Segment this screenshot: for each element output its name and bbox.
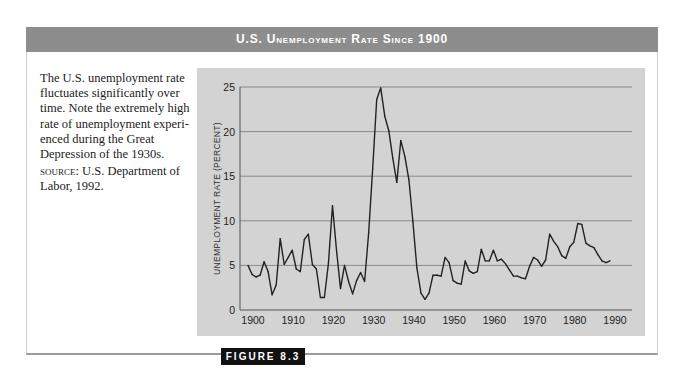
data-point-1940 xyxy=(408,179,409,180)
data-point-1973 xyxy=(541,266,542,267)
data-point-1966 xyxy=(513,276,514,277)
data-point-1928 xyxy=(360,272,361,273)
x-tick-label: 1900 xyxy=(241,314,265,326)
data-point-1914 xyxy=(304,239,305,240)
data-point-1978 xyxy=(561,255,562,256)
data-point-1909 xyxy=(284,264,285,265)
data-point-1925 xyxy=(348,281,349,282)
data-point-1905 xyxy=(268,271,269,272)
data-point-1968 xyxy=(521,277,522,278)
x-tick-label: 1990 xyxy=(603,314,627,326)
y-tick-label: 15 xyxy=(223,170,235,182)
data-point-1981 xyxy=(573,242,574,243)
data-point-1917 xyxy=(316,268,317,269)
data-point-1901 xyxy=(251,274,252,275)
data-point-1977 xyxy=(557,246,558,247)
data-point-1949 xyxy=(444,257,445,258)
data-point-1947 xyxy=(436,275,437,276)
data-point-1900 xyxy=(247,265,248,266)
y-tick-label: 20 xyxy=(223,126,235,138)
data-point-1936 xyxy=(392,158,393,159)
data-point-1913 xyxy=(300,271,301,272)
data-point-1952 xyxy=(457,283,458,284)
data-point-1979 xyxy=(565,258,566,259)
data-point-1989 xyxy=(605,262,606,263)
x-tick-label: 1980 xyxy=(563,314,587,326)
data-point-1935 xyxy=(388,130,389,131)
y-tick-label: 5 xyxy=(229,259,235,271)
data-point-1926 xyxy=(352,293,353,294)
line-chart: 0510152025 19001910192019301940195019601… xyxy=(0,0,693,391)
data-point-1950 xyxy=(449,262,450,263)
x-tick-label: 1940 xyxy=(402,314,426,326)
y-tick-label: 10 xyxy=(223,215,235,227)
data-point-1945 xyxy=(428,292,429,293)
x-tick-labels: 1900191019201930194019501960197019801990 xyxy=(241,314,627,326)
data-point-1954 xyxy=(465,260,466,261)
data-point-1929 xyxy=(364,281,365,282)
data-point-1988 xyxy=(601,260,602,261)
data-point-1937 xyxy=(396,182,397,183)
data-point-1918 xyxy=(320,297,321,298)
data-point-1933 xyxy=(380,87,381,88)
data-point-1903 xyxy=(259,275,260,276)
data-point-1906 xyxy=(272,294,273,295)
data-point-1938 xyxy=(400,140,401,141)
data-point-1957 xyxy=(477,271,478,272)
y-tick-labels: 0510152025 xyxy=(223,81,235,316)
data-point-1915 xyxy=(308,234,309,235)
data-point-1939 xyxy=(404,156,405,157)
data-point-1958 xyxy=(481,249,482,250)
x-tick-label: 1930 xyxy=(362,314,386,326)
data-point-1969 xyxy=(525,278,526,279)
data-point-1942 xyxy=(416,267,417,268)
gridlines xyxy=(240,87,632,310)
data-point-1983 xyxy=(581,224,582,225)
data-point-1908 xyxy=(280,238,281,239)
data-point-1980 xyxy=(569,246,570,247)
x-tick-label: 1920 xyxy=(322,314,346,326)
data-point-1974 xyxy=(545,259,546,260)
figure-number-label: FIGURE 8.3 xyxy=(221,348,305,365)
x-tick-label: 1910 xyxy=(282,314,306,326)
data-point-1953 xyxy=(461,284,462,285)
data-point-1911 xyxy=(292,250,293,251)
data-point-1951 xyxy=(453,280,454,281)
data-point-1986 xyxy=(593,247,594,248)
data-point-1961 xyxy=(493,250,494,251)
data-point-1982 xyxy=(577,223,578,224)
data-point-1912 xyxy=(296,268,297,269)
y-tick-label: 0 xyxy=(229,304,235,316)
data-point-1919 xyxy=(324,297,325,298)
data-point-1943 xyxy=(420,292,421,293)
x-tick-label: 1960 xyxy=(483,314,507,326)
data-point-1923 xyxy=(340,288,341,289)
data-point-1946 xyxy=(432,275,433,276)
data-point-1963 xyxy=(501,259,502,260)
data-point-1922 xyxy=(336,250,337,251)
data-point-1962 xyxy=(497,260,498,261)
data-point-1920 xyxy=(328,263,329,264)
data-point-1976 xyxy=(553,241,554,242)
data-point-1984 xyxy=(585,243,586,244)
data-points xyxy=(247,87,610,300)
data-point-1964 xyxy=(505,263,506,264)
data-point-1990 xyxy=(609,260,610,261)
data-point-1965 xyxy=(509,269,510,270)
data-point-1975 xyxy=(549,234,550,235)
y-axis-label: UNEMPLOYMENT RATE (PERCENT) xyxy=(212,122,222,275)
data-point-1934 xyxy=(384,116,385,117)
data-point-1959 xyxy=(485,260,486,261)
data-point-1910 xyxy=(288,257,289,258)
data-point-1941 xyxy=(412,221,413,222)
data-point-1907 xyxy=(276,284,277,285)
data-point-1970 xyxy=(529,266,530,267)
data-point-1902 xyxy=(255,276,256,277)
x-tick-label: 1970 xyxy=(523,314,547,326)
series-line-unemployment xyxy=(248,88,610,299)
data-point-1987 xyxy=(597,254,598,255)
data-point-1944 xyxy=(424,299,425,300)
x-tick-label: 1950 xyxy=(442,314,466,326)
data-point-1930 xyxy=(368,232,369,233)
data-point-1972 xyxy=(537,259,538,260)
